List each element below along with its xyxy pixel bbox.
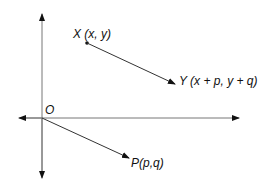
label-p: P(p,q) [131,157,164,169]
label-y: Y (x + p, y + q) [179,75,257,87]
label-origin: O [45,104,54,116]
label-x: X (x, y) [73,28,111,40]
vector-diagram: X (x, y) Y (x + p, y + q) O P(p,q) [0,0,265,191]
vector-xy [87,43,175,84]
vector-op [42,118,129,158]
